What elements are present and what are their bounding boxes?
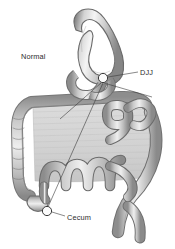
gi-anatomy-illustration bbox=[0, 0, 175, 249]
marker-djj[interactable] bbox=[98, 73, 107, 82]
leader-line-cecum bbox=[52, 212, 65, 216]
marker-cecum[interactable] bbox=[42, 206, 51, 215]
stomach bbox=[71, 9, 124, 96]
label-djj: DJJ bbox=[140, 69, 153, 76]
label-cecum: Cecum bbox=[67, 214, 91, 221]
label-normal: Normal bbox=[21, 53, 45, 60]
anatomy-figure: Normal DJJ Cecum bbox=[0, 0, 175, 249]
